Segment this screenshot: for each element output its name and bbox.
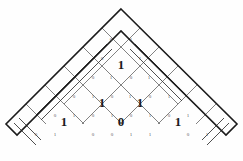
edge-label-1: 1 [54,132,57,137]
edge-label-1: 1 [206,132,209,137]
cell-digits-group: 111101 [61,57,182,129]
edge-label-1: 1 [187,113,190,118]
edge-label-0: 0 [73,94,76,99]
grid-line-4 [26,104,140,161]
cell-digit-cell-r5-c1: 0 [118,114,125,129]
double-line-5 [41,101,60,120]
cell-digit-cell-r4-c0: 1 [99,95,106,110]
edge-label-0: 0 [101,56,104,61]
cell-digit-cell-r5-c2: 1 [175,114,182,129]
edge-label-0: 0 [54,113,57,118]
cell-digit-cell-r5-c0: 1 [61,114,68,129]
edge-label-0: 0 [149,94,152,99]
grid-line-9 [102,104,216,161]
cell-digit-cell-r3-c0: 1 [118,57,125,72]
edge-label-0: 0 [92,132,95,137]
edge-label-1: 1 [149,132,152,137]
edge-label-1: 1 [130,132,133,137]
grid-lines-group [26,28,216,161]
edge-label-0: 0 [187,132,190,137]
edge-label-0: 0 [111,94,114,99]
edge-label-0: 0 [92,113,95,118]
edge-label-0: 0 [92,75,95,80]
edge-label-0: 0 [168,113,171,118]
lattice-svg: 010101010101010101010101001101 111101 [0,0,243,161]
edge-label-0: 0 [130,113,133,118]
double-line-1 [60,49,112,101]
edge-label-0: 0 [130,75,133,80]
cell-digit-cell-r4-c1: 1 [137,95,144,110]
edge-label-0: 0 [111,132,114,137]
diagram-canvas: 010101010101010101010101001101 111101 [0,0,243,161]
